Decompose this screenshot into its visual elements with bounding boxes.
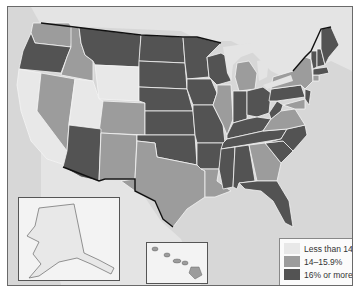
state-colorado (99, 101, 145, 135)
state-ohio (247, 87, 271, 117)
state-new-jersey (305, 89, 311, 105)
legend-swatch-high (284, 269, 300, 280)
state-nebraska (139, 87, 193, 111)
alaska-inset (18, 197, 120, 281)
state-new-mexico (99, 133, 137, 181)
legend-swatch-mid (284, 256, 300, 267)
hawaii-inset (146, 242, 208, 284)
state-iowa (187, 79, 217, 105)
state-michigan (235, 61, 257, 91)
state-connecticut (313, 75, 319, 81)
legend-swatch-low (284, 243, 300, 254)
state-kansas (145, 111, 195, 135)
map-frame: Less than 14% 14–15.9% 16% or more (7, 6, 353, 286)
legend-label-high: 16% or more (304, 270, 353, 280)
legend-item-mid: 14–15.9% (284, 256, 342, 267)
state-north-dakota (139, 35, 185, 63)
state-maryland (283, 99, 305, 109)
state-south-dakota (139, 61, 187, 89)
state-florida (239, 181, 293, 227)
map-legend: Less than 14% 14–15.9% 16% or more (279, 238, 353, 286)
state-wyoming (95, 65, 139, 101)
legend-item-low: Less than 14% (284, 243, 353, 254)
state-indiana (233, 91, 247, 123)
state-mississippi (219, 147, 235, 189)
alaska-shape (27, 204, 114, 278)
legend-label-mid: 14–15.9% (304, 257, 342, 267)
legend-label-low: Less than 14% (304, 244, 353, 254)
legend-item-high: 16% or more (284, 269, 353, 280)
hawaii-islands (152, 247, 202, 279)
